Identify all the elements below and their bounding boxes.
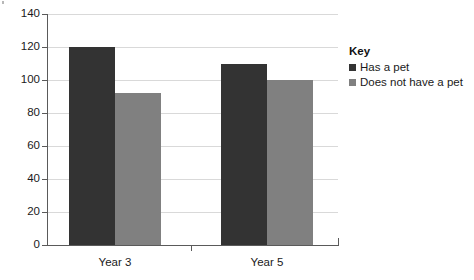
y-tick-label: 40 [27, 173, 40, 184]
scan-artifact [2, 1, 4, 4]
legend-entry: Has a pet [349, 60, 471, 74]
plot-area [47, 14, 338, 245]
y-tick-mark [42, 179, 47, 180]
y-tick-mark [42, 14, 47, 15]
x-axis-end-tick [338, 238, 339, 246]
y-tick-label: 120 [21, 41, 40, 52]
y-tick-mark [42, 245, 47, 246]
x-axis-line [47, 245, 339, 246]
x-tick-label: Year 3 [75, 256, 155, 269]
legend-swatch-icon [349, 79, 356, 86]
y-tick-label: 60 [27, 140, 40, 151]
legend-entries: Has a petDoes not have a pet [349, 60, 471, 89]
bar-chart: 020406080100120140 Year 3Year 5 Key Has … [0, 0, 474, 280]
y-axis-line [47, 14, 48, 246]
legend-swatch-icon [349, 64, 356, 71]
y-tick-label: 140 [21, 8, 40, 19]
legend: Key Has a petDoes not have a pet [349, 44, 471, 89]
bar [115, 93, 161, 245]
legend-label: Does not have a pet [360, 75, 463, 89]
legend-title: Key [349, 44, 471, 58]
y-tick-label: 100 [21, 74, 40, 85]
y-tick-mark [42, 113, 47, 114]
legend-label: Has a pet [360, 60, 409, 74]
gridline [47, 14, 338, 15]
bar [221, 64, 267, 246]
y-tick-mark [42, 47, 47, 48]
y-tick-label: 0 [34, 239, 40, 250]
y-tick-mark [42, 212, 47, 213]
bar [69, 47, 115, 245]
y-tick-mark [42, 146, 47, 147]
y-tick-label: 80 [27, 107, 40, 118]
y-tick-label: 20 [27, 206, 40, 217]
legend-entry: Does not have a pet [349, 75, 471, 89]
y-tick-mark [42, 80, 47, 81]
bar [267, 80, 313, 245]
x-tick-mark [191, 245, 192, 251]
x-tick-label: Year 5 [227, 256, 307, 269]
